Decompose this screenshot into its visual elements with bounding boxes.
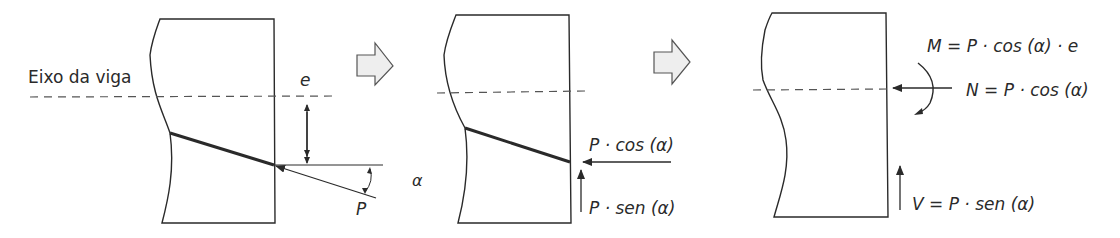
force-p-label: P [356, 199, 367, 219]
moment-label: M = P · cos (α) · e [927, 36, 1078, 56]
moment-arrowhead [914, 108, 923, 115]
transition-arrow-2 [654, 40, 690, 84]
beam-section-1 [150, 19, 275, 223]
inclined-bar-1 [170, 133, 274, 165]
beam-section-2 [444, 15, 571, 223]
panel-3-internal-forces: M = P · cos (α) · e N = P · cos (α) V = … [753, 13, 1089, 217]
inclined-bar-2 [465, 128, 570, 162]
beam-axis-dashed-3 [753, 89, 888, 90]
beam-axis-dashed-1 [30, 96, 332, 97]
beam-section-3 [762, 13, 888, 217]
vertical-component-label: P · sen (α) [589, 198, 675, 218]
angle-arc-arrow-top [367, 167, 372, 174]
angle-alpha-label: α [412, 171, 423, 190]
transition-arrow-1 [357, 43, 393, 85]
angle-arc-arrow-bottom [362, 188, 368, 194]
panel-1-original-load: Eixo da viga e P α [28, 19, 423, 223]
beam-force-decomposition-diagram: Eixo da viga e P α P · cos (α) P · sen (… [0, 0, 1120, 238]
eccentricity-label: e [300, 70, 310, 90]
normal-force-label: N = P · cos (α) [966, 80, 1089, 100]
panel-2-decomposed-load: P · cos (α) P · sen (α) [437, 15, 675, 223]
beam-axis-dashed-2 [437, 91, 585, 93]
horizontal-component-label: P · cos (α) [589, 135, 674, 155]
shear-force-label: V = P · sen (α) [912, 194, 1035, 214]
beam-axis-label: Eixo da viga [28, 67, 131, 87]
force-p-arrow [276, 166, 376, 198]
